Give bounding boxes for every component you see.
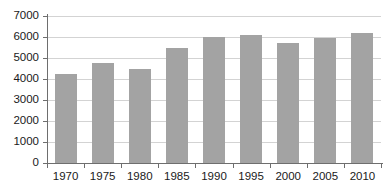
x-axis-tick xyxy=(270,164,271,168)
y-axis-line xyxy=(47,14,48,165)
bar xyxy=(129,69,151,164)
gridline xyxy=(47,16,381,17)
x-axis-tick xyxy=(47,164,48,168)
bar xyxy=(92,63,114,163)
plot-area xyxy=(47,16,381,163)
y-axis-tick-label: 7000 xyxy=(0,10,39,21)
x-axis-tick xyxy=(121,164,122,168)
y-axis-tick xyxy=(43,58,47,59)
bar xyxy=(314,38,336,163)
x-axis-tick xyxy=(233,164,234,168)
y-axis-tick-label: 1000 xyxy=(0,136,39,147)
x-axis-tick-label: 2010 xyxy=(339,170,385,182)
bar xyxy=(166,48,188,163)
y-axis-tick-label: 3000 xyxy=(0,94,39,105)
y-axis-tick xyxy=(43,79,47,80)
y-axis-tick xyxy=(43,142,47,143)
x-axis-tick xyxy=(307,164,308,168)
y-axis-tick xyxy=(43,121,47,122)
bar xyxy=(277,43,299,163)
y-axis-tick xyxy=(43,16,47,17)
bar xyxy=(351,33,373,163)
x-axis-tick xyxy=(195,164,196,168)
y-axis-tick-label: 6000 xyxy=(0,31,39,42)
x-axis-tick xyxy=(158,164,159,168)
y-axis-tick-label: 0 xyxy=(0,157,39,168)
x-axis-tick xyxy=(381,164,382,168)
y-axis-tick xyxy=(43,37,47,38)
y-axis-tick-label: 2000 xyxy=(0,115,39,126)
bar xyxy=(203,37,225,163)
x-axis-tick xyxy=(84,164,85,168)
y-axis-tick-label: 4000 xyxy=(0,73,39,84)
y-axis-tick xyxy=(43,100,47,101)
x-axis-tick xyxy=(344,164,345,168)
bar xyxy=(240,35,262,163)
y-axis-tick-label: 5000 xyxy=(0,52,39,63)
bar xyxy=(55,74,77,163)
bar-chart: 01000200030004000500060007000 1970197519… xyxy=(0,0,390,190)
x-axis-line xyxy=(44,163,383,164)
